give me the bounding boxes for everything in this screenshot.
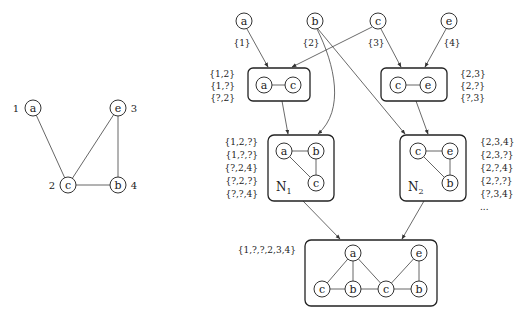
arrow-n1-to-final — [303, 201, 340, 239]
node-set: {4} — [443, 38, 460, 48]
node-index: 3 — [131, 103, 137, 114]
set-label: {2,?,?} — [480, 176, 513, 186]
box-final: a e c b c b {1,?,?,2,3,4} — [238, 240, 437, 306]
set-label: {2,3,?} — [480, 150, 513, 160]
top-node-a: a {1} — [233, 13, 252, 48]
node-label: a — [241, 15, 248, 28]
node-label: c — [319, 283, 325, 296]
top-node-b: b {2} — [302, 13, 323, 48]
edge-c-e — [68, 108, 118, 185]
node-index: 1 — [13, 103, 19, 114]
node-set: {3} — [367, 38, 384, 48]
box-ce: c e {2,3} {2,?} {?,3} — [381, 68, 486, 103]
box-ac: a c {1,2} {1,?} {?,2} — [209, 68, 310, 103]
ellipsis: ... — [480, 202, 489, 212]
node-label: a — [30, 102, 37, 115]
edge-a-c — [33, 108, 68, 185]
set-label: {1,?,?,2,3,4} — [238, 245, 296, 255]
set-label: {1,?,?} — [225, 150, 258, 160]
node-label: b — [311, 15, 318, 28]
set-label: {?,?,4} — [225, 189, 258, 199]
node-index: 4 — [131, 180, 137, 191]
arrows — [247, 27, 446, 239]
node-label: e — [446, 15, 453, 28]
node-label: e — [115, 102, 122, 115]
box-name: N2 — [408, 180, 424, 196]
set-label: {?,2} — [210, 93, 235, 103]
node-label: a — [350, 247, 357, 260]
node-label: a — [281, 145, 288, 158]
node-label: b — [446, 177, 453, 190]
node-c: c 2 — [49, 177, 76, 193]
arrow-n2-to-final — [402, 201, 424, 239]
node-label: c — [383, 283, 389, 296]
node-label: a — [261, 79, 268, 92]
arrow-e-to-ce — [425, 29, 446, 67]
input-graph: a 1 e 3 c 2 b 4 — [13, 100, 137, 193]
arrow-ce-to-n2 — [416, 101, 428, 134]
node-label: c — [290, 79, 296, 92]
set-label: {2,3} — [460, 69, 486, 79]
box-n1: a b c N1 {1,2,?} {1,?,?} {?,2,4} {?,2,?}… — [225, 135, 334, 201]
arrow-ac-to-n1 — [282, 101, 288, 134]
top-node-c: c {3} — [367, 13, 386, 48]
decomposition-diagram: a 1 e 3 c 2 b 4 — [0, 0, 516, 316]
node-label: c — [313, 177, 319, 190]
arrow-b-to-n1 — [317, 29, 335, 134]
set-label: {2,?,4} — [480, 163, 513, 173]
set-label: {1,2} — [209, 69, 235, 79]
set-label: {?,2,?} — [225, 176, 258, 186]
set-label: {1,?} — [210, 81, 235, 91]
set-label: {2,3,4} — [480, 137, 514, 147]
node-label: e — [425, 79, 432, 92]
node-label: e — [416, 247, 423, 260]
node-index: 2 — [49, 180, 55, 191]
node-label: b — [312, 145, 319, 158]
node-set: {1} — [233, 38, 250, 48]
set-label: {?,2,4} — [225, 163, 258, 173]
node-label: c — [415, 145, 421, 158]
node-label: b — [349, 283, 356, 296]
set-label: {?,3,4} — [480, 189, 513, 199]
top-node-e: e {4} — [441, 13, 461, 48]
box-name: N1 — [276, 180, 292, 196]
node-label: c — [395, 79, 401, 92]
arrow-a-to-ac — [247, 29, 268, 67]
set-label: {?,3} — [460, 93, 485, 103]
set-label: {1,2,?} — [225, 137, 258, 147]
node-label: c — [65, 179, 71, 192]
node-a: a 1 — [13, 100, 41, 116]
arrow-c-to-ce — [381, 29, 401, 67]
node-label: b — [114, 179, 121, 192]
node-e: e 3 — [110, 100, 137, 116]
node-label: e — [447, 145, 454, 158]
set-label: {2,?} — [460, 81, 485, 91]
node-label: c — [375, 15, 381, 28]
node-set: {2} — [302, 38, 319, 48]
node-label: b — [415, 283, 422, 296]
box-n2: c e b N2 {2,3,4} {2,3,?} {2,?,4} {2,?,?}… — [400, 135, 514, 212]
node-b: b 4 — [110, 177, 137, 193]
